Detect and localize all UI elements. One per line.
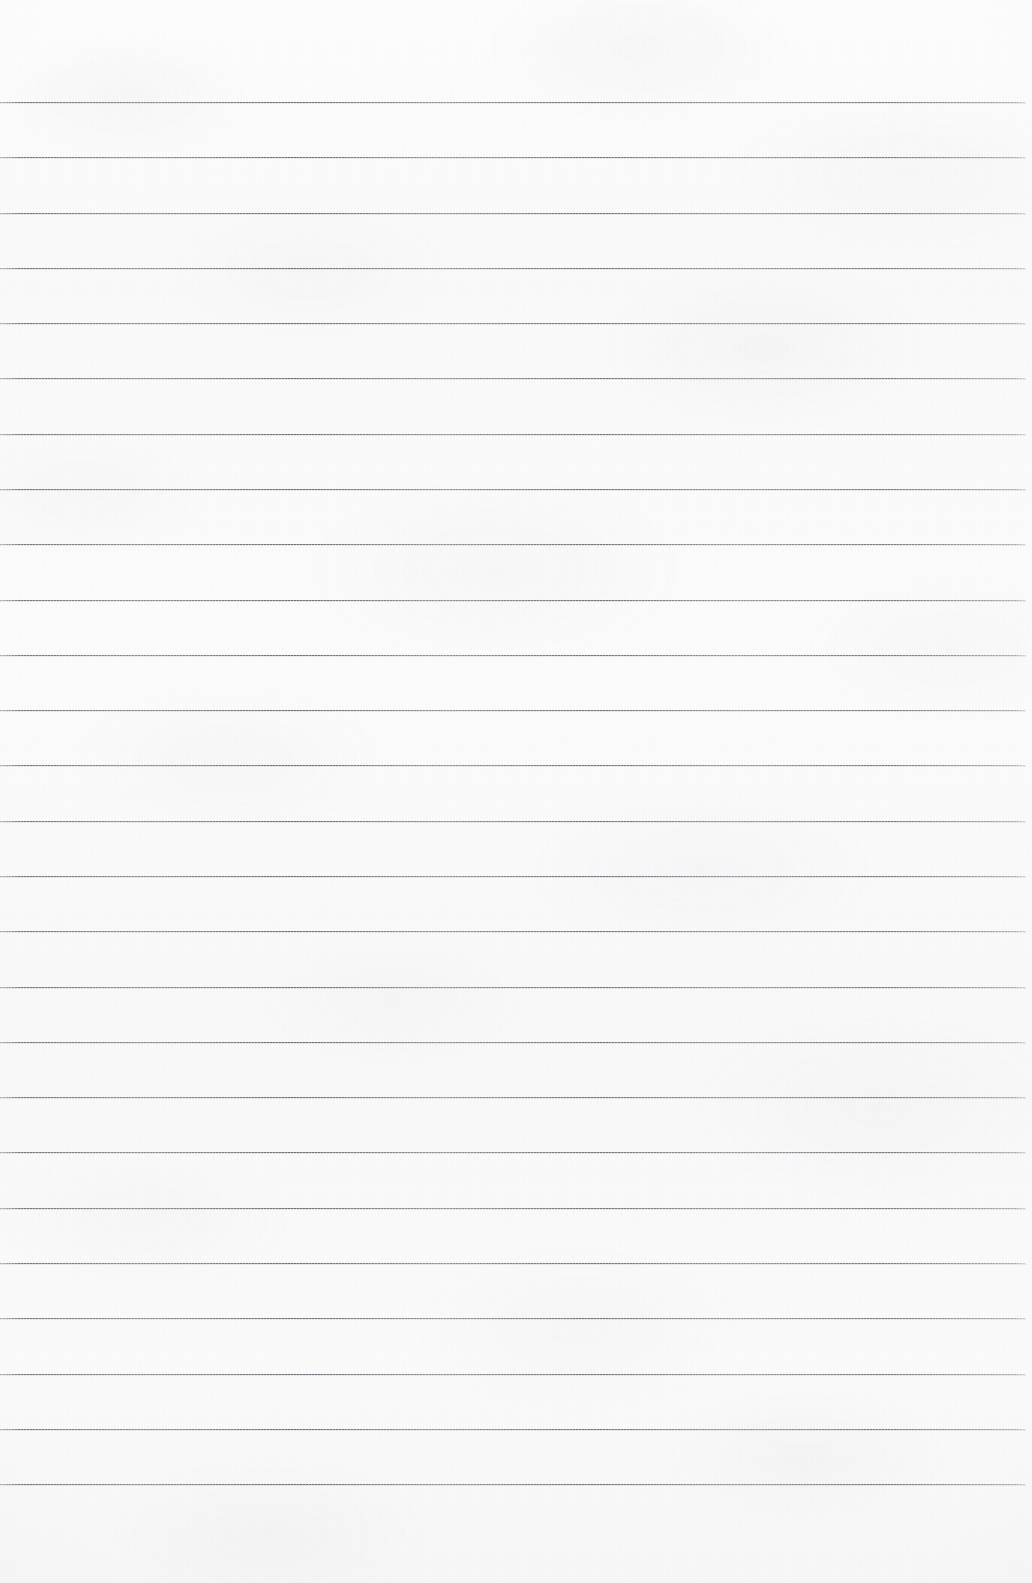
lined-paper-page bbox=[0, 0, 1032, 1583]
writing-area[interactable] bbox=[0, 0, 1032, 1583]
